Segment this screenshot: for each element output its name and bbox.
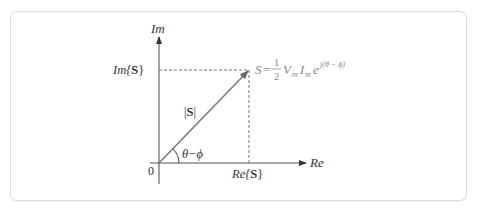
magnitude-label: |S| [184,105,196,119]
phasor-diagram: Im Re 0 Im{S} Re{S} |S| θ−ϕ S = 1 2 V m … [0,0,479,213]
svg-text:2: 2 [274,71,279,82]
svg-text:S: S [255,62,262,77]
y-axis-label: Im [150,21,165,36]
svg-text:e: e [313,62,319,77]
svg-text:=: = [263,62,270,77]
complex-power-formula: S = 1 2 V m I m e j(θ − ϕ) [255,57,345,82]
angle-label: θ−ϕ [182,147,204,161]
svg-text:m: m [292,70,298,79]
real-projection-label: Re{S} [231,167,263,181]
origin-label: 0 [148,164,154,178]
svg-text:1: 1 [274,57,279,68]
x-axis-label: Re [309,155,324,170]
angle-arc [173,149,179,163]
svg-text:j(θ − ϕ): j(θ − ϕ) [319,60,345,69]
imag-projection-label: Im{S} [112,63,144,77]
svg-text:m: m [305,70,311,79]
vector-s [159,71,248,163]
